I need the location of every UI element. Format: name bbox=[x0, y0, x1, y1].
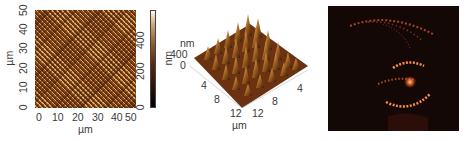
z-axis-label: nm bbox=[180, 38, 195, 49]
colorbar-tick: 400 bbox=[135, 31, 146, 49]
z-tick: 0 bbox=[180, 60, 186, 71]
y-tick: 30 bbox=[18, 42, 29, 54]
colorbar-tick: 200 bbox=[135, 62, 146, 80]
x-tick: 8 bbox=[214, 94, 220, 105]
y-tick: 20 bbox=[18, 62, 29, 74]
y-tick: 8 bbox=[272, 96, 278, 107]
diffraction-pattern-image bbox=[328, 6, 459, 131]
x-tick: 50 bbox=[125, 112, 137, 123]
x-axis-label: µm bbox=[78, 124, 93, 135]
y-tick: 12 bbox=[252, 108, 264, 119]
colorbar-tick: 0 bbox=[135, 104, 146, 110]
colorbar bbox=[150, 10, 156, 108]
x-tick: 10 bbox=[52, 112, 64, 123]
panel-c-diffraction-photo bbox=[328, 6, 459, 131]
x-tick: 40 bbox=[111, 112, 123, 123]
x-tick: 20 bbox=[72, 112, 84, 123]
surface-3d-plot bbox=[190, 8, 310, 108]
x-tick: 0 bbox=[36, 112, 42, 123]
unit-label: µm bbox=[232, 120, 247, 131]
y-tick: 50 bbox=[18, 4, 29, 16]
x-tick: 4 bbox=[201, 80, 207, 91]
z-tick: 400 bbox=[170, 49, 188, 60]
y-axis-label: µm bbox=[4, 51, 15, 66]
y-tick: 40 bbox=[18, 23, 29, 35]
x-tick: 12 bbox=[230, 108, 242, 119]
y-tick: 4 bbox=[297, 83, 303, 94]
y-tick: 10 bbox=[18, 81, 29, 93]
x-tick: 30 bbox=[92, 112, 104, 123]
y-tick: 0 bbox=[18, 104, 29, 110]
topography-heatmap bbox=[35, 10, 136, 108]
